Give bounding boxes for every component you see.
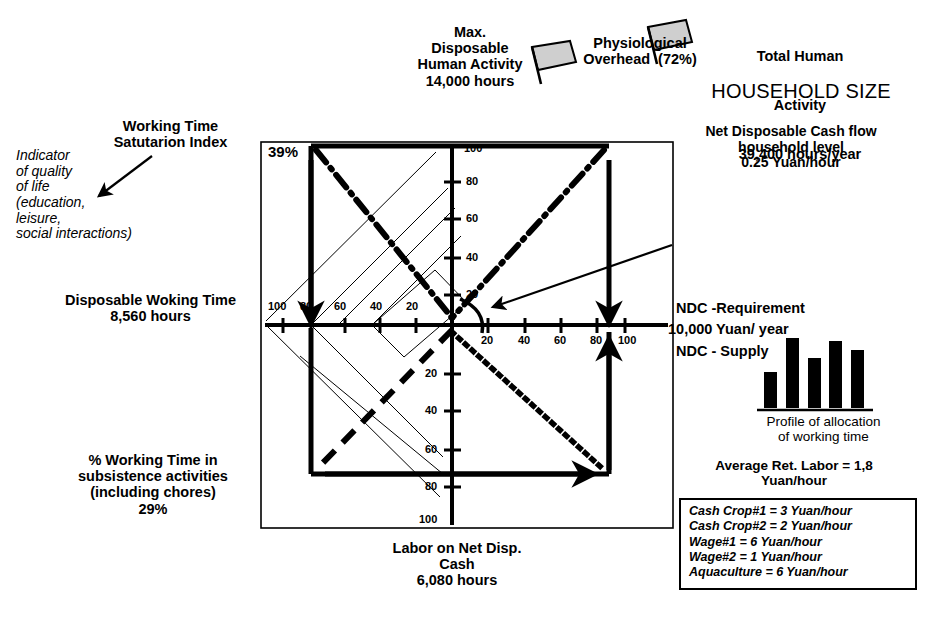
ndc-requirement-label: NDC -Requirement [676, 300, 906, 316]
diagram-canvas: Total Human Activity 39,400 hours/year H… [0, 0, 931, 632]
flow-arrows [311, 160, 609, 474]
quadrant-percent-label: 39% [268, 144, 328, 161]
xtick-left-3: 40 [370, 300, 382, 312]
rate-item-2: Wage#1 = 6 Yuan/hour [689, 535, 907, 550]
net-disposable-cash-flow-label: Net Disposable Cash flow household level… [666, 124, 916, 171]
ytick-top-3: 40 [466, 251, 478, 263]
rate-item-1: Cash Crop#2 = 2 Yuan/hour [689, 519, 907, 534]
rate-item-3: Wage#2 = 1 Yuan/hour [689, 550, 907, 565]
ytick-bottom-3: 80 [425, 480, 437, 492]
xtick-right-1: 40 [518, 334, 530, 346]
rates-box: Cash Crop#1 = 3 Yuan/hour Cash Crop#2 = … [679, 498, 917, 590]
dotted-line-lower-right [452, 332, 604, 470]
xtick-right-3: 80 [590, 334, 602, 346]
ytick-top-4: 20 [466, 288, 478, 300]
ytick-top-2: 60 [466, 212, 478, 224]
ytick-top-1: 80 [466, 175, 478, 187]
ndc-supply-label: NDC - Supply [676, 343, 906, 359]
disposable-working-time-label: Disposable Woking Time 8,560 hours [38, 292, 263, 324]
construction-lines-lower-left [266, 325, 443, 497]
xtick-right-0: 20 [481, 334, 493, 346]
ndc-requirement-value: 10,000 Yuan/ year [668, 321, 898, 337]
ytick-bottom-0: 20 [425, 367, 437, 379]
ytick-bottom-2: 60 [425, 443, 437, 455]
ytick-bottom-1: 40 [425, 404, 437, 416]
construction-lines-upper-left [266, 152, 461, 325]
xtick-right-2: 60 [554, 334, 566, 346]
quality-of-life-note: Indicator of quality of life (education,… [16, 148, 231, 242]
xtick-left-2: 60 [334, 300, 346, 312]
rate-item-4: Aquaculture = 6 Yuan/hour [689, 565, 907, 580]
xtick-right-4: 100 [618, 334, 636, 346]
xtick-left-1: 80 [300, 300, 312, 312]
leader-arrow-ndc-flow [493, 245, 672, 307]
rate-item-0: Cash Crop#1 = 3 Yuan/hour [689, 504, 907, 519]
xtick-left-4: 20 [406, 300, 418, 312]
percent-working-time-label: % Working Time in subsistence activities… [48, 452, 258, 517]
average-return-labor-label: Average Ret. Labor = 1,8 Yuan/hour [668, 458, 920, 488]
labor-net-disposable-cash-label: Labor on Net Disp. Cash 6,080 hours [352, 540, 562, 589]
xtick-left-0: 100 [268, 300, 286, 312]
ytick-bottom-4: 100 [419, 513, 437, 525]
physiological-overhead-label: Physiological Overhead (72%) [545, 35, 735, 67]
dashdot-line-upper-left [316, 150, 452, 318]
max-disposable-human-activity-label: Max. Disposable Human Activity 14,000 ho… [395, 24, 545, 89]
profile-caption: Profile of allocation of working time [716, 414, 931, 444]
working-time-saturation-index-label: Working Time Satutarion Index [78, 118, 263, 150]
household-size-title: HOUSEHOLD SIZE [686, 80, 916, 102]
ytick-top-0: 100 [464, 142, 482, 154]
